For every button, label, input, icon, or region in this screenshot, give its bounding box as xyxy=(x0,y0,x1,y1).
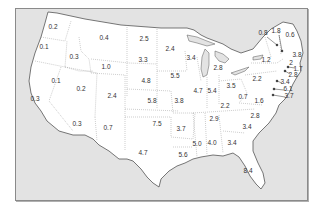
state-value-md: 3.7 xyxy=(284,93,293,100)
state-value-ga: 3.4 xyxy=(227,140,236,147)
state-value-nv: 0.1 xyxy=(51,78,60,85)
state-value-ia: 5.5 xyxy=(170,73,179,80)
state-value-la: 5.6 xyxy=(178,152,187,159)
state-value-wi: 3.4 xyxy=(186,55,195,62)
state-value-va: 1.6 xyxy=(254,98,263,105)
state-value-ks: 5.8 xyxy=(147,98,156,105)
state-value-il: 4.7 xyxy=(193,88,202,95)
map-frame xyxy=(15,8,308,201)
state-value-nm: 0.7 xyxy=(103,125,112,132)
state-value-nh: 1.8 xyxy=(271,28,280,35)
state-value-al: 4.0 xyxy=(207,140,216,147)
state-value-wv: 0.7 xyxy=(238,94,247,101)
state-value-ar: 3.7 xyxy=(176,126,185,133)
state-value-pa: 2.2 xyxy=(252,76,261,83)
state-value-id: 0.3 xyxy=(69,54,78,61)
state-value-mt: 0.4 xyxy=(99,35,108,42)
state-value-oh: 3.5 xyxy=(226,83,235,90)
state-value-mi: 2.8 xyxy=(213,65,222,72)
state-value-sc: 3.4 xyxy=(242,124,251,131)
state-value-wa: 0.2 xyxy=(48,24,57,31)
state-value-mn: 2.4 xyxy=(165,46,174,53)
state-value-ne: 4.8 xyxy=(141,78,150,85)
state-value-ky: 2.2 xyxy=(220,103,229,110)
state-value-ct: 2.8 xyxy=(288,72,297,79)
state-value-nc: 2.8 xyxy=(250,113,259,120)
state-value-ca: 0.3 xyxy=(30,96,39,103)
state-value-tx: 4.7 xyxy=(138,150,147,157)
us-map xyxy=(16,9,307,200)
state-value-me: 0.6 xyxy=(285,32,294,39)
state-value-nd: 2.5 xyxy=(139,36,148,43)
state-value-az: 0.3 xyxy=(72,121,81,128)
state-value-tn: 2.9 xyxy=(209,116,218,123)
state-value-sd: 3.3 xyxy=(138,57,147,64)
state-value-fl: 8.4 xyxy=(243,168,252,175)
state-value-mo: 3.8 xyxy=(174,98,183,105)
state-value-co: 2.4 xyxy=(107,93,116,100)
state-value-wy: 1.0 xyxy=(101,64,110,71)
state-value-ri-marker: 2 xyxy=(289,60,293,67)
state-value-vt: 0.8 xyxy=(258,30,267,37)
state-value-or: 0.1 xyxy=(39,44,48,51)
state-value-ny: 1.2 xyxy=(261,57,270,64)
state-value-ok: 7.5 xyxy=(152,121,161,128)
state-value-ms: 5.0 xyxy=(192,141,201,148)
state-value-in: 5.4 xyxy=(207,88,216,95)
state-value-ma: 3.8 xyxy=(292,52,301,59)
state-value-ut: 0.2 xyxy=(76,86,85,93)
